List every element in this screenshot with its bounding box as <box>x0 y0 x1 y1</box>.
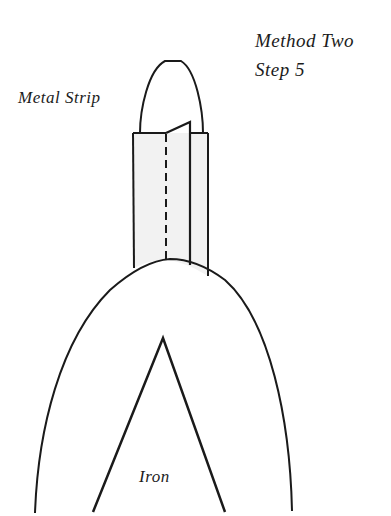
metal-strip-loop <box>140 61 203 133</box>
iron-label: Iron <box>139 467 170 487</box>
diagram-canvas: Method Two Step 5 Metal Strip Iron <box>0 0 391 516</box>
metal-strip-body <box>133 133 208 276</box>
diagram-title-method: Method Two <box>255 30 354 52</box>
strip-left-edge <box>133 133 134 268</box>
metal-strip-label: Metal Strip <box>18 88 100 108</box>
diagram-title-step: Step 5 <box>255 59 305 81</box>
diagram-svg <box>0 0 391 516</box>
